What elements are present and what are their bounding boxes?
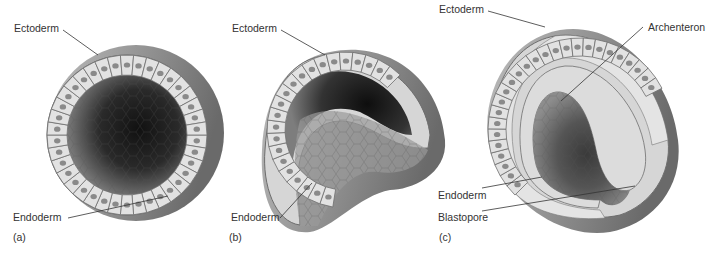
label-c-blastopore: Blastopore [438, 211, 488, 223]
label-a-ectoderm: Ectoderm [14, 22, 59, 34]
gastrulation-figure: Ectoderm Endoderm (a) Ectoderm Endoderm … [0, 0, 722, 259]
label-c-ectoderm: Ectoderm [439, 3, 484, 15]
label-b-ectoderm: Ectoderm [232, 22, 277, 34]
panel-b-early-gastrula [262, 50, 445, 232]
label-c-endoderm: Endoderm [438, 189, 486, 201]
leader-a-ectoderm [63, 30, 98, 55]
label-a-endoderm: Endoderm [13, 211, 61, 223]
panel-label-b: (b) [229, 231, 242, 243]
label-b-endoderm: Endoderm [231, 211, 279, 223]
leader-b-ectoderm [281, 30, 325, 55]
label-c-archenteron: Archenteron [648, 21, 705, 33]
panel-c-late-gastrula [487, 29, 679, 233]
panel-label-c: (c) [439, 231, 451, 243]
panel-label-a: (a) [13, 231, 26, 243]
leader-c-ectoderm [488, 11, 545, 27]
panel-a-blastula [47, 45, 224, 221]
figure-illustration [0, 0, 722, 259]
